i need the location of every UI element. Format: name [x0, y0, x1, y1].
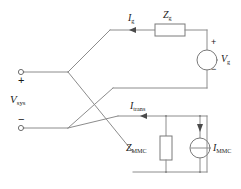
wire-top-node-to-bottom-return — [68, 72, 133, 152]
system-positive-sign: + — [18, 74, 24, 86]
current-arrow-itrans — [140, 113, 147, 119]
junction-dot-zmmc-top — [165, 115, 167, 117]
wire-bottom-node-to-return-rail — [68, 88, 113, 128]
label-v-g: Vg — [221, 53, 230, 65]
label-i-trans: Itrans — [130, 100, 145, 112]
label-i-mmc: IMMC — [213, 142, 231, 154]
circuit-diagram: + − Vsys Ig Zg + − Vg Itrans ZMMC IMMC — [0, 0, 241, 189]
label-v-sys: Vsys — [10, 93, 25, 106]
resistor-zg-body — [155, 24, 185, 36]
wire-top-node-to-top-rail — [68, 30, 110, 72]
label-z-g: Zg — [163, 9, 172, 21]
vg-positive-sign: + — [211, 37, 216, 47]
system-negative-sign: − — [18, 113, 24, 125]
label-z-mmc: ZMMC — [126, 142, 147, 154]
vg-negative-sign: − — [211, 64, 216, 74]
current-arrow-immc — [197, 124, 203, 132]
system-negative-terminal[interactable] — [18, 125, 23, 130]
junction-dot-immc-bottom — [199, 171, 201, 173]
resistor-zmmc-body — [160, 136, 172, 160]
current-arrow-ig — [129, 27, 136, 33]
junction-dot-immc-top — [199, 115, 201, 117]
junction-dot-zmmc-bottom — [165, 171, 167, 173]
label-i-g: Ig — [128, 12, 134, 24]
schematic-canvas — [0, 0, 241, 189]
